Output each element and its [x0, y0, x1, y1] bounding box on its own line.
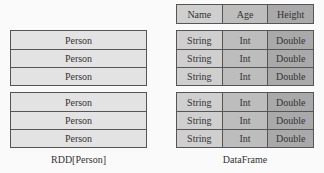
rdd-partition-1: Person Person Person [10, 30, 147, 86]
int-cell: Int [222, 68, 268, 85]
dataframe-row: String Int Double [177, 31, 313, 49]
int-cell: Int [222, 112, 268, 129]
person-cell: Person [11, 50, 146, 67]
header-age: Age [222, 5, 268, 23]
rdd-row: Person [11, 111, 146, 129]
int-cell: Int [222, 93, 268, 111]
dataframe-header: Name Age Height [176, 4, 314, 24]
header-row: Name Age Height [177, 5, 313, 23]
double-cell: Double [267, 112, 313, 129]
string-cell: String [177, 112, 222, 129]
dataframe-row: String Int Double [177, 49, 313, 67]
header-name: Name [177, 5, 222, 23]
rdd-caption: RDD[Person] [10, 154, 147, 165]
dataframe-caption: DataFrame [176, 154, 314, 165]
rdd-row: Person [11, 93, 146, 111]
dataframe-row: String Int Double [177, 67, 313, 85]
person-cell: Person [11, 68, 146, 85]
rdd-row: Person [11, 129, 146, 147]
string-cell: String [177, 31, 222, 49]
string-cell: String [177, 93, 222, 111]
header-height: Height [267, 5, 313, 23]
int-cell: Int [222, 31, 268, 49]
person-cell: Person [11, 31, 146, 49]
string-cell: String [177, 130, 222, 147]
double-cell: Double [267, 50, 313, 67]
rdd-row: Person [11, 67, 146, 85]
person-cell: Person [11, 130, 146, 147]
string-cell: String [177, 50, 222, 67]
double-cell: Double [267, 68, 313, 85]
string-cell: String [177, 68, 222, 85]
dataframe-row: String Int Double [177, 111, 313, 129]
rdd-partition-2: Person Person Person [10, 92, 147, 148]
dataframe-row: String Int Double [177, 93, 313, 111]
dataframe-row: String Int Double [177, 129, 313, 147]
rdd-row: Person [11, 49, 146, 67]
int-cell: Int [222, 130, 268, 147]
double-cell: Double [267, 93, 313, 111]
rdd-row: Person [11, 31, 146, 49]
person-cell: Person [11, 93, 146, 111]
int-cell: Int [222, 50, 268, 67]
person-cell: Person [11, 112, 146, 129]
double-cell: Double [267, 130, 313, 147]
dataframe-partition-2: String Int Double String Int Double Stri… [176, 92, 314, 148]
dataframe-partition-1: String Int Double String Int Double Stri… [176, 30, 314, 86]
double-cell: Double [267, 31, 313, 49]
